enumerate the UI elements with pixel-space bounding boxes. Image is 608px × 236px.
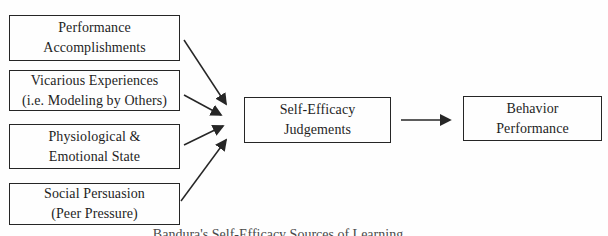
- arrow-physiological-to-judgements: [184, 126, 223, 145]
- node-self-efficacy-judgements: Self-Efficacy Judgements: [244, 97, 391, 143]
- node-label-line: Performance: [496, 119, 569, 139]
- node-performance-accomplishments: Performance Accomplishments: [9, 15, 180, 61]
- arrow-vicarious-to-judgements: [184, 95, 221, 115]
- figure-caption-cropped: Bandura's Self-Efficacy Sources of Learn…: [118, 227, 438, 236]
- self-efficacy-diagram: Performance Accomplishments Vicarious Ex…: [0, 0, 608, 236]
- node-label-line: Emotional State: [49, 147, 140, 167]
- node-label-line: Judgements: [284, 120, 351, 140]
- node-label-line: (Peer Pressure): [51, 204, 138, 224]
- node-social-persuasion: Social Persuasion (Peer Pressure): [9, 183, 180, 225]
- node-behavior-performance: Behavior Performance: [463, 96, 602, 141]
- node-label-line: Vicarious Experiences: [31, 71, 159, 91]
- arrow-social-to-judgements: [181, 140, 226, 201]
- node-vicarious-experiences: Vicarious Experiences (i.e. Modeling by …: [9, 70, 180, 111]
- node-label-line: Behavior: [506, 99, 558, 119]
- node-label-line: Social Persuasion: [44, 184, 145, 204]
- node-label-line: Physiological &: [48, 127, 140, 147]
- arrow-performance-to-judgements: [184, 40, 226, 104]
- node-label-line: Self-Efficacy: [280, 100, 356, 120]
- node-label-line: (i.e. Modeling by Others): [22, 91, 167, 111]
- node-label-line: Accomplishments: [43, 38, 146, 58]
- node-label-line: Performance: [58, 18, 131, 38]
- node-physiological-emotional-state: Physiological & Emotional State: [9, 124, 180, 169]
